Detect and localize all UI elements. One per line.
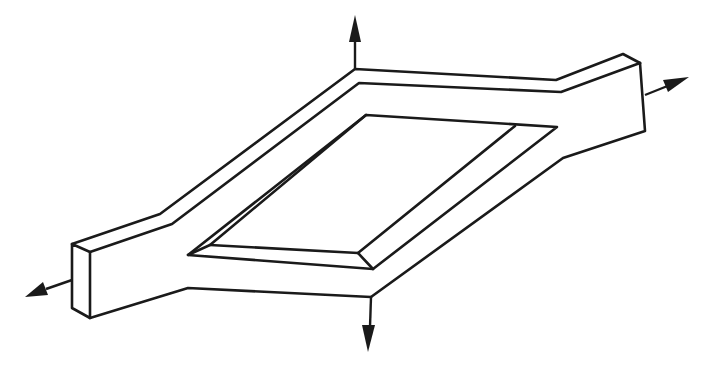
- diagram-canvas: Isometric line drawing of a rectangular …: [0, 0, 706, 365]
- right-tab-face: [371, 63, 645, 297]
- left-tab-end: [72, 244, 90, 318]
- center-window: [188, 115, 557, 269]
- frame-specimen-drawing: [0, 0, 706, 365]
- outer-top-edge: [72, 54, 640, 244]
- arrow-down-icon: [362, 297, 375, 352]
- arrow-up-icon: [349, 15, 361, 69]
- plate-outline: [72, 54, 645, 318]
- outer-bottom-edge: [90, 288, 371, 318]
- inner-top-edge: [90, 63, 640, 252]
- arrow-right-icon: [645, 77, 689, 95]
- window-wall-corner-2: [358, 253, 373, 269]
- arrow-left-icon: [25, 280, 72, 297]
- window-inner-wall: [210, 115, 515, 253]
